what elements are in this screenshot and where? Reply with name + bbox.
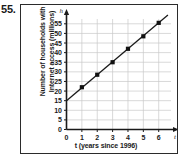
y-axis-title-line2: Internet access (millions)	[47, 11, 54, 92]
x-axis-tick-label: 3	[111, 134, 115, 141]
data-point-marker	[157, 21, 161, 25]
data-point-marker	[126, 47, 130, 51]
x-axis-tick-label: 0	[65, 134, 69, 141]
y-axis-title-line1: Number of households with	[39, 7, 46, 97]
data-point-marker	[141, 34, 145, 38]
y-axis-tick-label: 10	[54, 107, 62, 114]
x-axis-title: t (years since 1996)	[51, 142, 161, 149]
x-axis-tick-label: 6	[157, 134, 161, 141]
figure-frame: ht05101520253035404550550123456 Number o…	[20, 4, 178, 154]
problem-number: 55.	[1, 3, 16, 15]
x-axis-tick-label: 1	[80, 134, 84, 141]
x-axis-tick-label: 5	[141, 134, 145, 141]
data-point-marker	[80, 85, 84, 89]
data-point-marker	[111, 60, 115, 64]
x-axis-arrowhead	[173, 127, 177, 132]
y-axis-tick-label: 0	[58, 126, 62, 133]
y-axis-title: Number of households with Internet acces…	[39, 0, 56, 104]
y-axis-arrowhead	[64, 9, 69, 15]
problem-figure-page: 55. ht05101520253035404550550123456 Numb…	[0, 0, 182, 160]
x-axis-variable-label: t	[174, 133, 177, 141]
x-axis-tick-label: 2	[95, 134, 99, 141]
y-axis-tick-label: 5	[58, 116, 62, 123]
data-point-marker	[95, 73, 99, 77]
x-axis-tick-label: 4	[126, 134, 130, 141]
y-axis-variable-label: h	[60, 7, 64, 15]
